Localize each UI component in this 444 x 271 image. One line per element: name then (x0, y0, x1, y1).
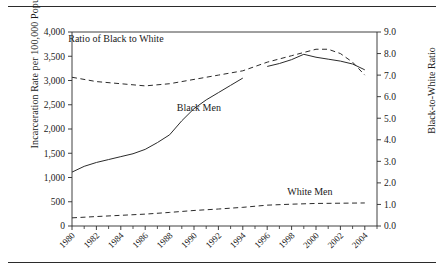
y-tick-label-left: 1,500 (44, 149, 66, 159)
x-tick-label: 2002 (326, 230, 346, 250)
y-tick-label-right: 7.0 (384, 71, 396, 81)
x-tick-label: 1988 (155, 230, 175, 250)
x-tick-label: 1992 (204, 230, 224, 250)
x-tick-label: 1984 (106, 230, 126, 250)
chart-figure: Incarceration Rate per 100,000 Populatio… (0, 0, 444, 271)
x-tick-label: 1982 (82, 230, 102, 250)
y-tick-label-left: 500 (51, 197, 66, 207)
x-tick-label: 2004 (350, 230, 370, 250)
series-line-ratio-of-black-to-white (72, 49, 365, 86)
series-line-white-men (72, 203, 365, 218)
y-tick-label-right: 0.0 (384, 221, 396, 231)
y-tick-label-left: 3,500 (44, 52, 66, 62)
series-annotation-label: White Men (287, 186, 332, 197)
y-tick-label-left: 0 (60, 221, 65, 231)
x-tick-label: 1996 (252, 230, 272, 250)
x-tick-label: 1986 (130, 230, 150, 250)
y-tick-label-right: 8.0 (384, 49, 396, 59)
plot-area-container: 05001,0001,5002,0002,5003,0003,5004,0000… (0, 0, 444, 271)
series-annotation-label: Ratio of Black to White (68, 33, 164, 44)
y-tick-label-left: 3,000 (44, 76, 66, 86)
x-tick-label: 1980 (57, 230, 77, 250)
y-tick-label-right: 9.0 (384, 27, 396, 37)
y-tick-label-left: 2,000 (44, 124, 66, 134)
y-tick-label-right: 5.0 (384, 114, 396, 124)
x-tick-label: 1990 (179, 230, 199, 250)
x-tick-label: 2000 (301, 230, 321, 250)
x-tick-label: 1998 (277, 230, 297, 250)
series-line-black-men (72, 78, 243, 172)
y-tick-label-right: 4.0 (384, 135, 396, 145)
series-line-black-men (267, 54, 365, 70)
y-tick-label-right: 1.0 (384, 200, 396, 210)
series-annotation-label: Black Men (177, 102, 221, 113)
x-tick-label: 1994 (228, 230, 248, 250)
y-tick-label-right: 6.0 (384, 92, 396, 102)
y-tick-label-left: 4,000 (44, 27, 66, 37)
line-chart-svg: 05001,0001,5002,0002,5003,0003,5004,0000… (0, 0, 444, 271)
y-tick-label-left: 2,500 (44, 100, 66, 110)
y-tick-label-right: 3.0 (384, 157, 396, 167)
y-tick-label-left: 1,000 (44, 173, 66, 183)
y-tick-label-right: 2.0 (384, 178, 396, 188)
